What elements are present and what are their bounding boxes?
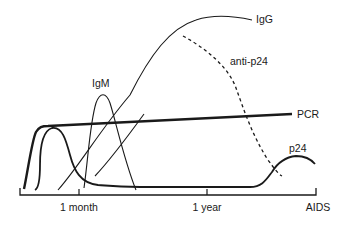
anti-p24-label: anti-p24 xyxy=(230,55,268,67)
igg-label: IgG xyxy=(256,13,273,25)
p24-label: p24 xyxy=(289,142,307,154)
igm-label: IgM xyxy=(92,77,110,89)
hiv-marker-timecourse-diagram: IgG anti-p24 IgM PCR p24 1 month 1 year … xyxy=(0,0,346,228)
tick-label-aids: AIDS xyxy=(306,201,331,213)
p24-curve xyxy=(35,128,315,190)
tick-label-1-year: 1 year xyxy=(192,201,222,213)
x-axis-line xyxy=(20,188,316,195)
tick-label-1-month: 1 month xyxy=(60,201,98,213)
pcr-curve xyxy=(24,114,292,189)
igm-curve xyxy=(84,95,136,190)
pcr-label: PCR xyxy=(297,108,320,120)
